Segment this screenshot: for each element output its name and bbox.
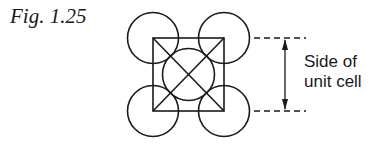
side-of-unit-cell-label: Side of unit cell [304, 52, 362, 92]
label-line-1: Side of [304, 52, 362, 72]
label-line-2: unit cell [304, 72, 362, 92]
arrow-head-up-icon [282, 39, 288, 50]
arrow-head-down-icon [282, 99, 288, 110]
